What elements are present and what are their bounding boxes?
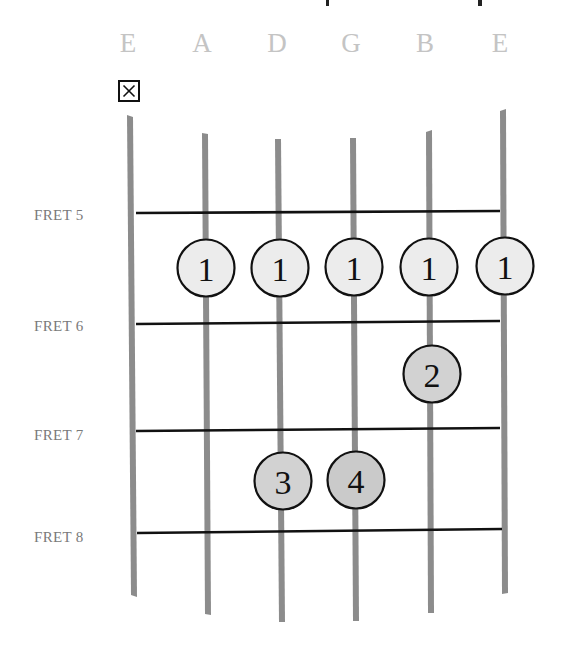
finger-dot-g-5: 1 <box>326 239 383 296</box>
string-a <box>202 133 211 615</box>
finger-dot-d-7: 3 <box>255 453 312 510</box>
fretboard: 1 1 1 1 1 2 3 4 <box>0 0 565 645</box>
fret-line-6 <box>136 321 500 324</box>
svg-text:3: 3 <box>275 464 292 501</box>
svg-text:1: 1 <box>272 251 289 288</box>
finger-dot-b-5: 1 <box>401 239 458 296</box>
finger-dot-high-e-5: 1 <box>477 238 534 295</box>
fret-line-8 <box>137 529 502 533</box>
svg-text:1: 1 <box>346 250 363 287</box>
string-g <box>350 138 359 621</box>
fret-line-7 <box>136 428 500 431</box>
finger-dot-b-6: 2 <box>404 346 461 403</box>
finger-dot-d-5: 1 <box>252 240 309 297</box>
svg-text:1: 1 <box>497 249 514 286</box>
svg-text:2: 2 <box>424 357 441 394</box>
finger-dot-g-7: 4 <box>328 452 385 509</box>
fret-line-5 <box>136 211 500 213</box>
string-low-e <box>127 115 137 597</box>
svg-text:4: 4 <box>348 463 365 500</box>
string-high-e <box>500 109 508 594</box>
svg-text:1: 1 <box>198 251 215 288</box>
svg-text:1: 1 <box>421 250 438 287</box>
finger-dot-a-5: 1 <box>178 240 235 297</box>
